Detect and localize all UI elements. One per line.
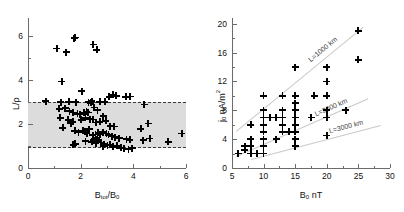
y-axis-label-right: j0 nA/m2 [215, 90, 227, 122]
x-minor-tick [248, 166, 249, 169]
data-point [292, 64, 299, 71]
data-point [355, 27, 362, 34]
y-tick [232, 53, 237, 54]
data-point [53, 45, 60, 52]
data-point [63, 49, 70, 56]
panel-left-scatter: 02460246 L/ρ Btot/B0 [0, 0, 202, 212]
data-point [260, 150, 267, 157]
data-point [129, 145, 136, 152]
y-tick [232, 168, 237, 169]
data-point [111, 123, 118, 130]
data-point [116, 135, 123, 142]
y-tick [232, 139, 237, 140]
x-axis-line-right [232, 168, 390, 169]
y-tick [28, 124, 33, 125]
data-point [57, 114, 64, 121]
x-minor-tick [374, 166, 375, 169]
data-point [127, 93, 134, 100]
data-point [72, 99, 79, 106]
data-point [247, 121, 254, 128]
data-point [273, 136, 280, 143]
y-tick [28, 36, 33, 37]
data-point [292, 107, 299, 114]
y-tick-label: 20 [218, 19, 227, 29]
data-point [178, 130, 185, 137]
plot-area-left: 02460246 [28, 18, 186, 168]
data-point [58, 78, 65, 85]
data-point [355, 56, 362, 63]
plot-area-right: L=1000 kmL=2000 kmL=3000 km5101520253004… [232, 18, 390, 168]
x-minor-tick [107, 166, 108, 169]
data-point [260, 136, 267, 143]
data-point [260, 107, 267, 114]
data-point [323, 78, 330, 85]
data-point [72, 140, 79, 147]
x-tick-label: 4 [131, 171, 136, 181]
data-point [42, 98, 49, 105]
data-point [90, 137, 97, 144]
data-point [279, 107, 286, 114]
y-tick [232, 110, 237, 111]
data-point [292, 100, 299, 107]
data-point [137, 125, 144, 132]
y-minor-tick [232, 125, 235, 126]
x-tick [186, 164, 187, 169]
data-point [292, 136, 299, 143]
y-minor-tick [28, 102, 31, 103]
data-point [279, 114, 286, 121]
y-tick-label: 0 [18, 163, 23, 173]
x-tick [327, 164, 328, 169]
x-minor-tick [54, 166, 55, 169]
data-point [247, 136, 254, 143]
figure-root: 02460246 L/ρ Btot/B0 L=1000 kmL=2000 kmL… [0, 0, 404, 212]
x-tick-label: 30 [385, 171, 394, 181]
x-axis-label-right: B0 nT [300, 190, 322, 200]
x-tick [295, 164, 296, 169]
data-point [93, 46, 100, 53]
data-point [323, 132, 330, 139]
x-tick-label: 25 [354, 171, 363, 181]
y-tick-label: 4 [222, 134, 227, 144]
data-point [165, 138, 172, 145]
x-minor-tick [160, 166, 161, 169]
data-point [146, 135, 153, 142]
x-tick-label: 10 [259, 171, 268, 181]
y-minor-tick [232, 96, 235, 97]
y-tick [28, 80, 33, 81]
data-point [260, 121, 267, 128]
x-minor-tick [311, 166, 312, 169]
x-tick [390, 164, 391, 169]
data-point [323, 64, 330, 71]
y-axis-label-left: L/ρ [11, 97, 21, 110]
y-tick [28, 168, 33, 169]
x-tick-label: 5 [230, 171, 235, 181]
data-point [100, 143, 107, 150]
data-point [311, 92, 318, 99]
y-minor-tick [232, 67, 235, 68]
data-point [72, 34, 79, 41]
data-point [260, 143, 267, 150]
reference-line-3-right [251, 125, 381, 160]
data-point [323, 114, 330, 121]
y-tick-label: 4 [18, 75, 23, 85]
y-axis-line-right [232, 18, 233, 168]
y-tick-label: 16 [218, 48, 227, 58]
reference-line-label-3: L=3000 km [328, 119, 363, 135]
x-tick-label: 20 [322, 171, 331, 181]
x-tick-label: 15 [290, 171, 299, 181]
x-tick [133, 164, 134, 169]
data-point [69, 118, 76, 125]
x-minor-tick [279, 166, 280, 169]
reference-line-1-right [236, 27, 363, 132]
data-point [292, 121, 299, 128]
x-minor-tick [343, 166, 344, 169]
x-tick-label: 0 [26, 171, 31, 181]
data-point [260, 92, 267, 99]
y-tick-label: 2 [18, 119, 23, 129]
x-tick-label: 6 [184, 171, 189, 181]
x-tick [358, 164, 359, 169]
y-tick [232, 81, 237, 82]
data-point [323, 107, 330, 114]
y-minor-tick [232, 38, 235, 39]
data-point [279, 121, 286, 128]
